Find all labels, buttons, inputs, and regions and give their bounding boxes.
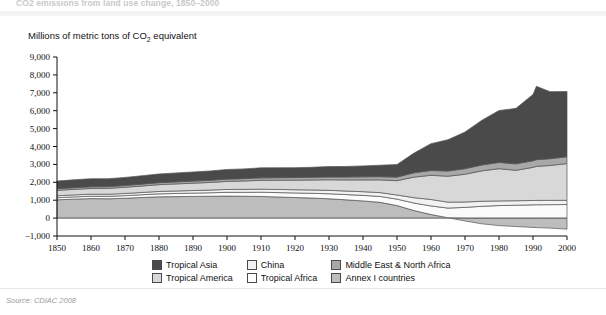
svg-text:1960: 1960 [422,243,441,253]
legend-item-annex-i-countries[interactable]: Annex I countries [331,273,450,283]
svg-text:6,000: 6,000 [30,106,51,116]
svg-text:1930: 1930 [320,243,339,253]
legend-label-tropical-america: Tropical America [166,273,233,283]
svg-text:2000: 2000 [558,243,577,253]
legend-label-middle-east-north-africa: Middle East & North Africa [345,260,450,270]
legend-label-tropical-asia: Tropical Asia [166,260,217,270]
legend-item-tropical-asia[interactable]: Tropical Asia [152,260,233,270]
legend-item-tropical-america[interactable]: Tropical America [152,273,233,283]
svg-text:1940: 1940 [354,243,373,253]
svg-text:1910: 1910 [252,243,271,253]
svg-text:1950: 1950 [388,243,407,253]
legend-swatch-tropical-america [152,273,162,283]
legend-swatch-tropical-africa [247,273,257,283]
svg-text:1970: 1970 [456,243,475,253]
footer-rule [0,288,606,289]
svg-text:9,000: 9,000 [30,52,51,62]
svg-text:1850: 1850 [48,243,67,253]
svg-text:−1,000: −1,000 [25,231,51,241]
legend-swatch-tropical-asia [152,260,162,270]
svg-text:1900: 1900 [218,243,237,253]
svg-text:2,000: 2,000 [30,177,51,187]
legend-swatch-middle-east-north-africa [331,260,341,270]
legend-item-china[interactable]: China [247,260,318,270]
legend-label-china: China [261,260,285,270]
legend-item-middle-east-north-africa[interactable]: Middle East & North Africa [331,260,450,270]
legend-swatch-annex-i-countries [331,273,341,283]
svg-text:7,000: 7,000 [30,88,51,98]
chart-legend: Tropical Asia China Middle East & North … [152,260,450,283]
svg-text:4,000: 4,000 [30,142,51,152]
legend-swatch-china [247,260,257,270]
svg-text:1990: 1990 [524,243,543,253]
svg-text:5,000: 5,000 [30,124,51,134]
svg-text:0: 0 [46,213,51,223]
legend-label-annex-i-countries: Annex I countries [345,273,415,283]
source-note: Source: CDIAC 2008 [6,296,76,305]
svg-text:1920: 1920 [286,243,305,253]
svg-text:1980: 1980 [490,243,509,253]
svg-text:1880: 1880 [150,243,169,253]
legend-item-tropical-africa[interactable]: Tropical Africa [247,273,318,283]
svg-text:1870: 1870 [116,243,135,253]
svg-text:1,000: 1,000 [30,195,51,205]
svg-text:3,000: 3,000 [30,159,51,169]
svg-text:1890: 1890 [184,243,203,253]
svg-text:8,000: 8,000 [30,70,51,80]
legend-label-tropical-africa: Tropical Africa [261,273,318,283]
svg-text:1860: 1860 [82,243,101,253]
